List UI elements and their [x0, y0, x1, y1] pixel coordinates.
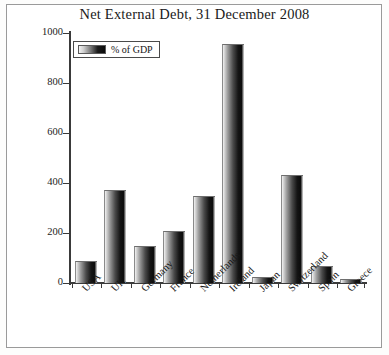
y-tick-label: 600	[19, 126, 63, 137]
y-tick-mark	[63, 83, 71, 84]
x-tick-mark	[364, 283, 365, 288]
x-tick-mark	[72, 283, 73, 288]
x-tick-mark	[278, 283, 279, 288]
bar-netherlands	[193, 196, 215, 284]
x-tick-mark	[190, 283, 191, 288]
y-tick-label: 400	[19, 176, 63, 187]
y-tick-label: 1000	[19, 26, 63, 37]
legend-swatch-gdp	[78, 45, 106, 54]
bar-switzerland	[281, 175, 303, 283]
chart-page: Net External Debt, 31 December 2008 0200…	[0, 0, 389, 355]
x-tick-mark	[219, 283, 220, 288]
y-tick-mark	[63, 33, 71, 34]
legend: % of GDP	[73, 41, 160, 58]
bar-ireland	[222, 44, 244, 283]
x-tick-mark	[249, 283, 250, 288]
y-tick-mark	[63, 233, 71, 234]
x-tick-mark	[160, 283, 161, 288]
bars-layer	[71, 33, 366, 283]
y-tick-mark	[63, 283, 71, 284]
y-tick-mark	[63, 183, 71, 184]
x-tick-mark	[337, 283, 338, 288]
bar-uk	[104, 190, 126, 283]
legend-label-gdp: % of GDP	[111, 44, 153, 55]
y-tick-label: 800	[19, 76, 63, 87]
x-tick-mark	[101, 283, 102, 288]
y-tick-mark	[63, 133, 71, 134]
y-tick-label: 0	[19, 276, 63, 287]
x-tick-mark	[131, 283, 132, 288]
x-tick-mark	[308, 283, 309, 288]
y-tick-label: 200	[19, 226, 63, 237]
page-title: Net External Debt, 31 December 2008	[0, 6, 389, 23]
